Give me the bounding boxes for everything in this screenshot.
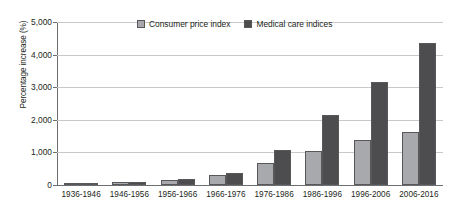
- x-axis-tick-label: 2006-2016: [399, 190, 438, 199]
- bar-cpi: [402, 132, 419, 185]
- x-axis-tick-label: 1946-1956: [110, 190, 149, 199]
- bar-medical: [129, 182, 146, 185]
- axis-baseline: [57, 185, 443, 186]
- x-axis-tick-label: 1976-1986: [255, 190, 294, 199]
- y-axis-tick-label: 4,000: [8, 50, 52, 60]
- y-axis-tick-label: 3,000: [8, 82, 52, 92]
- bar-group: [154, 179, 202, 185]
- bar-cpi: [209, 175, 226, 185]
- bar-medical: [371, 82, 388, 185]
- y-axis-tick-label: 5,000: [8, 17, 52, 27]
- legend-item: Consumer price index: [137, 19, 230, 29]
- legend-item: Medical care indices: [244, 19, 332, 29]
- x-axis-tick-label: 1956-1966: [158, 190, 197, 199]
- bar-chart: Percentage increase (%) 01,0002,0003,000…: [0, 0, 458, 216]
- bar-cpi: [354, 140, 371, 185]
- bar-groups: [57, 22, 443, 185]
- bar-medical: [419, 43, 436, 185]
- bar-cpi: [112, 182, 129, 185]
- bar-medical: [178, 179, 195, 185]
- bar-group: [347, 82, 395, 185]
- y-axis-tick-label: 1,000: [8, 147, 52, 157]
- legend-swatch-icon: [137, 20, 145, 28]
- bar-group: [105, 182, 153, 185]
- bar-group: [250, 150, 298, 185]
- bar-medical: [226, 173, 243, 185]
- bar-group: [298, 115, 346, 185]
- legend-label: Medical care indices: [256, 19, 332, 29]
- bar-cpi: [161, 180, 178, 185]
- bar-medical: [322, 115, 339, 185]
- bar-group: [202, 173, 250, 185]
- plot-area: [57, 22, 443, 185]
- y-axis-title: Percentage increase (%): [19, 0, 28, 140]
- bar-group: [395, 43, 443, 185]
- x-axis-tick-label: 1986-1996: [303, 190, 342, 199]
- bar-cpi: [305, 151, 322, 185]
- x-axis-tick-label: 1936-1946: [62, 190, 101, 199]
- x-axis-tick-label: 1996-2006: [351, 190, 390, 199]
- legend-swatch-icon: [244, 20, 252, 28]
- bar-medical: [274, 150, 291, 185]
- chart-legend: Consumer price indexMedical care indices: [137, 19, 332, 29]
- x-axis-tick-label: 1966-1976: [206, 190, 245, 199]
- legend-label: Consumer price index: [149, 19, 230, 29]
- bar-cpi: [257, 163, 274, 185]
- bar-cpi: [64, 183, 81, 185]
- y-axis-tick-label: 0: [8, 180, 52, 190]
- y-axis-tick-label: 2,000: [8, 115, 52, 125]
- bar-group: [57, 183, 105, 185]
- bar-medical: [81, 183, 98, 185]
